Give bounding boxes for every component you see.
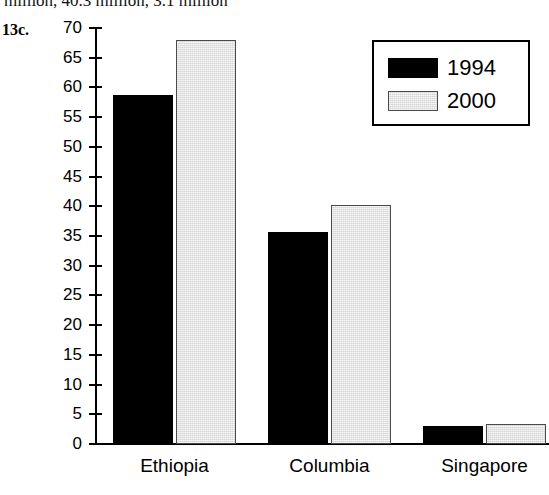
y-axis-tick-label: 5 [22,405,82,422]
y-axis-tick [89,265,102,267]
y-axis-tick-label: 70 [22,19,82,36]
gray-swatch-icon [388,91,438,111]
bar-ethiopia-1994 [113,95,173,444]
y-axis-tick [89,146,102,148]
y-axis-tick [89,443,102,445]
bar-singapore-2000 [486,424,546,444]
y-axis-tick [89,294,102,296]
bar-ethiopia-2000 [176,40,236,444]
y-axis-tick [89,27,102,29]
legend-label-2000: 2000 [447,90,496,112]
bar-chart: 7065605550454035302520151050 EthiopiaCol… [0,0,549,495]
y-axis-tick-label: 30 [22,257,82,274]
y-axis-tick-label: 40 [22,197,82,214]
y-axis-tick [89,116,102,118]
legend-label-1994: 1994 [447,57,496,79]
chart-legend: 1994 2000 [372,40,530,126]
y-axis-tick [89,354,102,356]
y-axis-tick-label: 35 [22,227,82,244]
y-axis-tick-label: 60 [22,78,82,95]
y-axis-tick-label: 55 [22,108,82,125]
legend-entry-1994: 1994 [388,53,496,83]
y-axis-tick-label: 20 [22,316,82,333]
y-axis-tick [89,324,102,326]
y-axis-tick [89,57,102,59]
y-axis-tick-label: 45 [22,168,82,185]
y-axis-tick-label: 65 [22,49,82,66]
category-label-singapore: Singapore [415,455,549,477]
category-label-ethiopia: Ethiopia [105,455,245,477]
y-axis-tick [89,205,102,207]
y-axis-tick-label: 25 [22,286,82,303]
category-label-columbia: Columbia [260,455,400,477]
legend-entry-2000: 2000 [388,86,496,116]
y-axis-tick [89,86,102,88]
y-axis-tick [89,384,102,386]
y-axis-tick [89,235,102,237]
y-axis-tick-label: 50 [22,138,82,155]
y-axis-tick-label: 0 [22,435,82,452]
bar-singapore-1994 [423,426,483,444]
y-axis-tick-label: 15 [22,346,82,363]
y-axis-tick-label: 10 [22,376,82,393]
black-swatch-icon [388,58,438,78]
y-axis-tick [89,176,102,178]
y-axis-tick [89,413,102,415]
bar-columbia-2000 [331,205,391,444]
bar-columbia-1994 [268,232,328,444]
